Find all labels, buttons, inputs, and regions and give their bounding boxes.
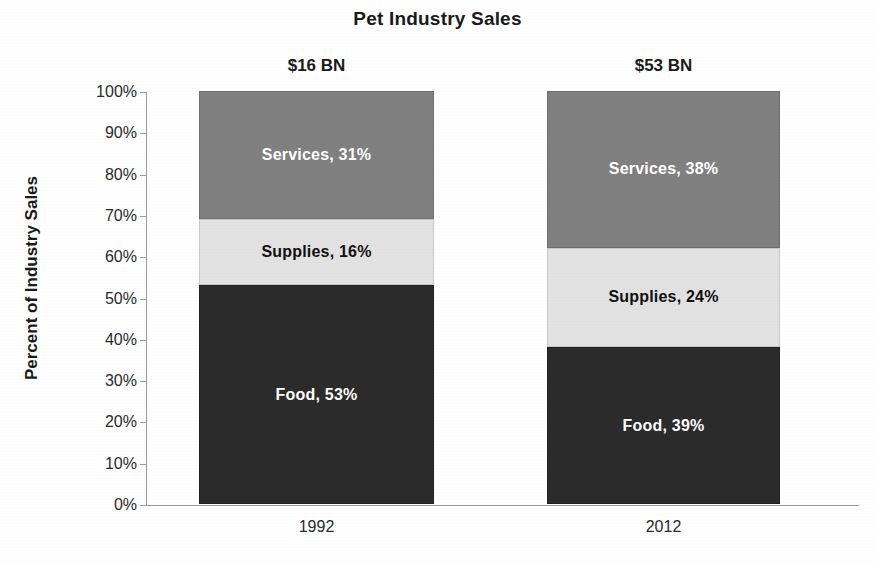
- y-tick-label-60: 60%: [105, 248, 137, 266]
- bar-2012-segment-services[interactable]: Services, 38%: [547, 91, 780, 248]
- y-axis-line: [146, 92, 147, 506]
- bar-1992-label-supplies: Supplies, 16%: [261, 243, 371, 261]
- y-tick-label-80: 80%: [105, 166, 137, 184]
- bar-2012-segment-supplies[interactable]: Supplies, 24%: [547, 248, 780, 347]
- x-axis-line: [146, 505, 859, 506]
- x-category-label-2012: 2012: [547, 518, 780, 536]
- bar-1992-segment-supplies[interactable]: Supplies, 16%: [199, 219, 434, 285]
- chart-figure: Pet Industry Sales Percent of Industry S…: [0, 0, 875, 565]
- chart-title: Pet Industry Sales: [0, 8, 875, 30]
- bar-1992-label-services: Services, 31%: [262, 146, 371, 164]
- y-tick-label-50: 50%: [105, 290, 137, 308]
- bar-2012[interactable]: Services, 38% Supplies, 24% Food, 39%: [547, 91, 780, 504]
- bar-total-1992: $16 BN: [199, 56, 434, 76]
- plot-area: 100% 90% 80% 70% 60% 50% 40% 30% 20% 10%: [146, 92, 859, 505]
- y-tick-label-10: 10%: [105, 455, 137, 473]
- x-category-label-1992: 1992: [199, 518, 434, 536]
- bar-1992-label-food: Food, 53%: [276, 386, 358, 404]
- bar-2012-label-supplies: Supplies, 24%: [608, 288, 718, 306]
- y-tick-label-90: 90%: [105, 124, 137, 142]
- y-tick-label-20: 20%: [105, 413, 137, 431]
- y-tick-label-70: 70%: [105, 207, 137, 225]
- bar-2012-segment-food[interactable]: Food, 39%: [547, 347, 780, 504]
- bar-total-2012: $53 BN: [547, 56, 780, 76]
- y-axis-title: Percent of Industry Sales: [22, 128, 42, 428]
- bar-2012-label-food: Food, 39%: [623, 417, 705, 435]
- bar-2012-label-services: Services, 38%: [609, 160, 718, 178]
- bar-1992-segment-food[interactable]: Food, 53%: [199, 285, 434, 504]
- bar-1992-segment-services[interactable]: Services, 31%: [199, 91, 434, 219]
- bar-1992[interactable]: Services, 31% Supplies, 16% Food, 53%: [199, 91, 434, 504]
- y-tick-label-100: 100%: [96, 83, 137, 101]
- y-tick-label-0: 0%: [114, 496, 137, 514]
- y-tick-label-30: 30%: [105, 372, 137, 390]
- y-tick-label-40: 40%: [105, 331, 137, 349]
